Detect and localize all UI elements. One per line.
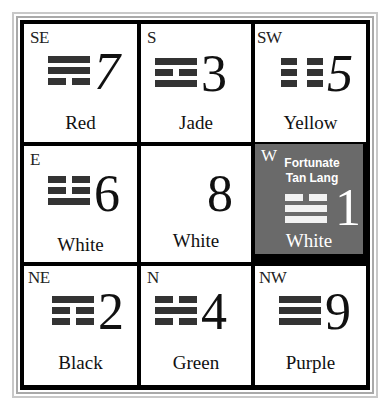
color-label: White (24, 234, 137, 256)
color-label: White (141, 230, 251, 252)
direction-label: N (147, 268, 159, 288)
trigram-icon (155, 296, 197, 326)
color-label: Yellow (255, 112, 366, 134)
cell-center: 8 White (141, 146, 251, 262)
trigram-icon (48, 56, 90, 86)
trigram-icon (52, 296, 94, 326)
cell-se: SE 7 Red (24, 24, 137, 142)
cell-n: N 4 Green (141, 266, 251, 385)
trigram-icon (48, 176, 90, 206)
trigram-icon (285, 194, 327, 224)
color-label: Black (24, 352, 137, 374)
direction-label: SW (257, 28, 282, 48)
direction-label: NW (259, 268, 286, 288)
star-number: 9 (325, 286, 351, 338)
color-label: Purple (255, 352, 366, 374)
cell-nw: NW 9 Purple (255, 266, 366, 385)
direction-label: S (147, 28, 156, 48)
star-number: 4 (201, 286, 227, 338)
color-label: Red (24, 112, 137, 134)
star-number: 5 (327, 48, 353, 100)
direction-label: NE (28, 268, 50, 288)
star-number: 8 (207, 168, 233, 220)
color-label: Green (141, 352, 251, 374)
cell-sw: SW 5 Yellow (255, 24, 366, 142)
star-number: 3 (201, 48, 227, 100)
cell-e: E 6 White (24, 146, 137, 262)
lo-shu-grid: SE 7 Red S 3 Jade SW 5 Yellow E (20, 20, 370, 390)
cell-w: W Fortunate Tan Lang 1 White (255, 144, 363, 254)
direction-label: SE (30, 28, 49, 48)
star-number: 2 (98, 286, 124, 338)
star-number: 1 (335, 182, 361, 234)
trigram-icon (279, 296, 321, 326)
color-label: White (255, 230, 363, 252)
color-label: Jade (141, 112, 251, 134)
star-number: 6 (94, 168, 120, 220)
star-number: 7 (94, 46, 120, 98)
trigram-icon (155, 58, 197, 88)
cell-s: S 3 Jade (141, 24, 251, 142)
star-name-line1: Fortunate (255, 156, 363, 170)
trigram-icon (281, 58, 323, 88)
direction-label: E (30, 150, 40, 170)
cell-ne: NE 2 Black (24, 266, 137, 385)
